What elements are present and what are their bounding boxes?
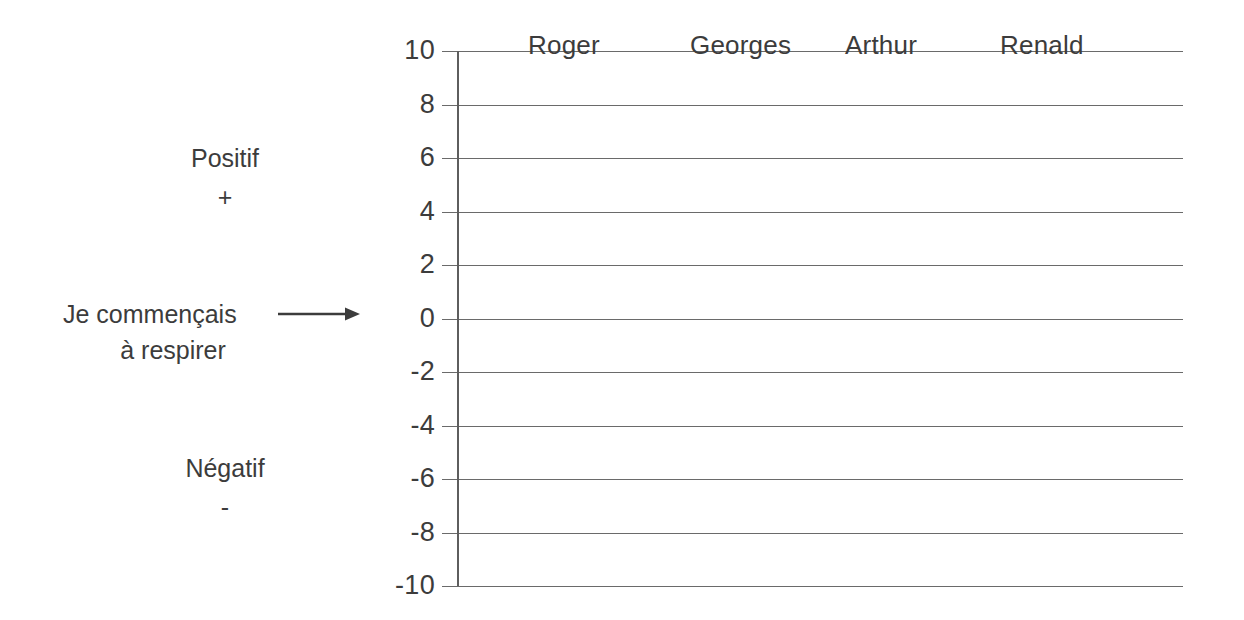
y-tick-mark-minus-8: [442, 533, 457, 534]
y-tick-mark-6: [442, 158, 457, 159]
gridline-0: [457, 319, 1183, 320]
annotation-positive-sign: +: [120, 182, 330, 212]
y-tick-mark-minus-6: [442, 479, 457, 480]
annotation-zero-note: Je commençais à respirer: [63, 299, 283, 365]
y-tick-mark-minus-10: [442, 586, 457, 587]
gridline-minus-2: [457, 372, 1183, 373]
y-tick-mark-8: [442, 105, 457, 106]
annotation-negative-sign: -: [120, 492, 330, 522]
point-label-roger: Roger: [528, 32, 600, 58]
annotation-positive-label: Positif: [191, 144, 259, 172]
y-tick-mark-2: [442, 265, 457, 266]
annotation-negative-label: Négatif: [185, 454, 264, 482]
gridline-4: [457, 212, 1183, 213]
y-tick-mark-0: [442, 319, 457, 320]
y-tick-mark-minus-2: [442, 372, 457, 373]
point-label-renald: Renald: [1000, 32, 1084, 58]
y-tick-label-minus-10: -10: [345, 572, 435, 599]
annotation-zero-note-line2: à respirer: [63, 335, 283, 365]
y-tick-label-2: 2: [345, 251, 435, 278]
point-label-georges: Georges: [690, 32, 791, 58]
y-tick-mark-10: [442, 51, 457, 52]
gridline-minus-6: [457, 479, 1183, 480]
y-tick-label-minus-4: -4: [345, 412, 435, 439]
annotation-zero-note-line1: Je commençais: [63, 299, 283, 329]
arrow-right-icon: [278, 303, 360, 325]
y-axis-line: [457, 51, 459, 586]
gridline-2: [457, 265, 1183, 266]
gridline-minus-8: [457, 533, 1183, 534]
y-tick-label-8: 8: [345, 91, 435, 118]
y-tick-label-minus-8: -8: [345, 519, 435, 546]
gridline-6: [457, 158, 1183, 159]
chart-page: Roger Georges Arthur Renald 10 8 6 4 2 0…: [0, 0, 1244, 620]
y-tick-label-6: 6: [345, 144, 435, 171]
y-tick-label-10: 10: [345, 37, 435, 64]
y-tick-label-minus-6: -6: [345, 465, 435, 492]
annotation-negative: Négatif -: [120, 453, 330, 522]
gridline-minus-4: [457, 426, 1183, 427]
y-tick-mark-minus-4: [442, 426, 457, 427]
y-tick-label-minus-2: -2: [345, 358, 435, 385]
plot-area: Roger Georges Arthur Renald: [457, 51, 1183, 586]
y-tick-label-4: 4: [345, 198, 435, 225]
annotation-positive: Positif +: [120, 143, 330, 212]
gridline-8: [457, 105, 1183, 106]
gridline-minus-10: [457, 586, 1183, 587]
y-tick-mark-4: [442, 212, 457, 213]
point-label-arthur: Arthur: [845, 32, 917, 58]
